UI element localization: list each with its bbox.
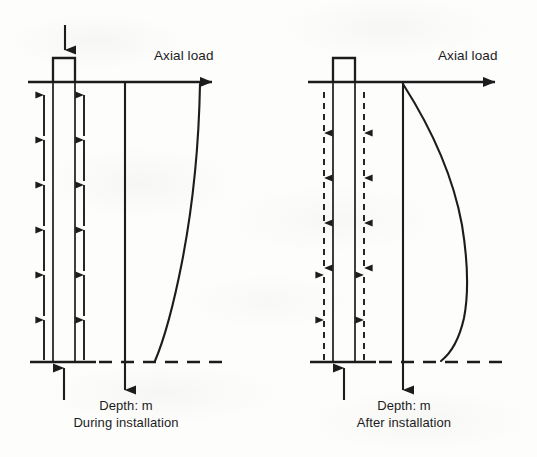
pile-shaft-outline	[53, 82, 75, 362]
panel-after-installation	[308, 58, 508, 400]
panel-caption-right: After installation	[324, 415, 484, 430]
depth-axis-label-right: Depth: m	[344, 398, 464, 413]
panel-during-installation	[28, 25, 225, 400]
figure-canvas: Axial load Axial load Depth: m During in…	[0, 0, 537, 457]
axial-load-curve	[155, 84, 200, 361]
axial-load-label-right: Axial load	[438, 48, 498, 63]
pile-load-diagram-svg	[0, 0, 537, 457]
depth-axis-label-left: Depth: m	[66, 398, 186, 413]
pile-head-block	[53, 58, 75, 82]
pile-shaft-outline	[333, 82, 355, 362]
axial-load-label-left: Axial load	[154, 48, 214, 63]
pile-head-block	[333, 58, 355, 82]
axial-load-curve	[403, 84, 467, 361]
panel-caption-left: During installation	[46, 415, 206, 430]
